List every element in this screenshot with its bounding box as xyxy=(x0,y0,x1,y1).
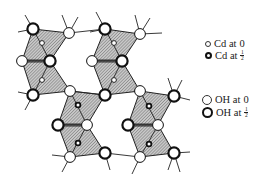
oh-at-0-atom xyxy=(135,86,146,97)
coordination-polyhedra xyxy=(22,29,174,157)
cd-at-half-atom xyxy=(147,104,152,109)
legend-cd-at-half: Cd at 12 xyxy=(205,50,244,61)
oh-at-0-atom xyxy=(82,120,93,131)
oh-at-0-atom xyxy=(64,28,75,39)
legend-value: 0 xyxy=(243,94,248,105)
large-open-circle-icon xyxy=(202,95,212,105)
crystal-structure-diagram xyxy=(0,0,200,186)
oh-at-half-atom xyxy=(99,89,110,100)
polyhedron xyxy=(128,125,174,157)
oh-at-half-atom xyxy=(27,23,38,34)
oh-at-half-atom xyxy=(99,23,110,34)
legend-oh-at-half: OH at 12 xyxy=(202,107,248,118)
oh-at-0-atom xyxy=(135,152,146,163)
legend-label: OH at xyxy=(215,94,240,105)
oh-at-half-atom xyxy=(52,119,63,130)
oh-at-0-atom xyxy=(135,29,146,40)
oh-at-half-atom xyxy=(99,147,110,158)
legend-value: 0 xyxy=(239,38,244,49)
oh-at-0-atom xyxy=(153,120,164,131)
oh-at-half-atom xyxy=(27,89,38,100)
small-open-circle-icon xyxy=(205,41,211,47)
oh-at-0-atom xyxy=(87,56,98,67)
fraction-half: 12 xyxy=(240,50,244,61)
legend-oh-at-0: OH at 0 xyxy=(202,94,249,105)
small-bold-circle-icon xyxy=(205,52,212,59)
legend-label: Cd at xyxy=(214,38,236,49)
cd-at-0-atom xyxy=(40,41,45,46)
legend-label: Cd at xyxy=(215,50,237,61)
cd-at-0-atom xyxy=(112,41,117,46)
oh-at-half-atom xyxy=(168,90,179,101)
large-bold-circle-icon xyxy=(202,107,213,118)
oh-at-0-atom xyxy=(65,86,76,97)
fraction-half: 12 xyxy=(244,107,248,118)
oh-at-half-atom xyxy=(168,147,179,158)
cd-at-half-atom xyxy=(76,103,81,108)
legend-cd-at-0: Cd at 0 xyxy=(205,38,245,49)
oh-at-half-atom xyxy=(116,55,127,66)
polyhedron xyxy=(58,91,105,125)
cd-at-half-atom xyxy=(147,142,152,147)
oh-at-0-atom xyxy=(65,152,76,163)
oh-at-0-atom xyxy=(17,56,28,67)
cd-at-0-atom xyxy=(112,78,117,83)
cd-at-0-atom xyxy=(40,78,45,83)
cd-at-half-atom xyxy=(76,141,81,146)
oh-at-half-atom xyxy=(122,119,133,130)
polyhedron xyxy=(58,125,105,157)
oh-at-half-atom xyxy=(44,55,55,66)
legend-label: OH at xyxy=(216,107,241,118)
